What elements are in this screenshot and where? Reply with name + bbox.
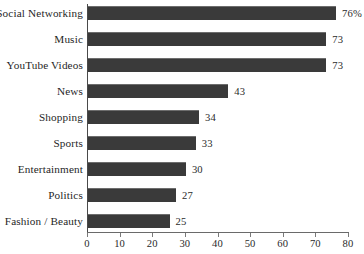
- category-label: Fashion / Beauty: [5, 208, 83, 234]
- bar-container: [88, 110, 199, 124]
- value-label: 27: [182, 182, 193, 208]
- category-label: News: [57, 78, 83, 104]
- category-label: Shopping: [39, 104, 83, 130]
- bar: [88, 214, 170, 228]
- bar: [88, 32, 326, 46]
- bar-row: Music73: [0, 26, 364, 52]
- value-label: 73: [332, 26, 343, 52]
- x-tick: [315, 233, 316, 237]
- x-tick: [250, 233, 251, 237]
- value-label: 30: [192, 156, 203, 182]
- x-tick-label: 80: [333, 238, 363, 249]
- value-label: 73: [332, 52, 343, 78]
- bar-row: Sports33: [0, 130, 364, 156]
- x-tick-label: 10: [105, 238, 135, 249]
- category-label: Entertainment: [18, 156, 83, 182]
- x-tick: [218, 233, 219, 237]
- bar-container: [88, 162, 186, 176]
- x-tick-label: 20: [137, 238, 167, 249]
- bar: [88, 110, 199, 124]
- bar-container: [88, 214, 170, 228]
- bar-container: [88, 6, 336, 20]
- x-tick: [283, 233, 284, 237]
- category-label: Social Networking: [0, 0, 83, 26]
- bar: [88, 84, 228, 98]
- value-label: 76%: [342, 0, 362, 26]
- bar: [88, 58, 326, 72]
- bar-row: News43: [0, 78, 364, 104]
- value-label: 34: [205, 104, 216, 130]
- bar-row: Politics27: [0, 182, 364, 208]
- x-tick-label: 50: [235, 238, 265, 249]
- category-label: Music: [54, 26, 83, 52]
- x-tick: [185, 233, 186, 237]
- category-label: Sports: [54, 130, 84, 156]
- x-tick-label: 0: [72, 238, 102, 249]
- bar-row: Fashion / Beauty25: [0, 208, 364, 234]
- category-label: Politics: [48, 182, 83, 208]
- x-tick: [87, 233, 88, 237]
- x-tick-label: 60: [268, 238, 298, 249]
- bar-container: [88, 32, 326, 46]
- bar-row: Shopping34: [0, 104, 364, 130]
- value-label: 25: [176, 208, 187, 234]
- x-tick: [348, 233, 349, 237]
- bar-row: Entertainment30: [0, 156, 364, 182]
- value-label: 33: [202, 130, 213, 156]
- x-tick-label: 40: [203, 238, 233, 249]
- bar-container: [88, 136, 196, 150]
- x-tick-label: 70: [300, 238, 330, 249]
- bar: [88, 6, 336, 20]
- bar-container: [88, 188, 176, 202]
- category-label: YouTube Videos: [7, 52, 83, 78]
- bar-container: [88, 58, 326, 72]
- x-tick: [120, 233, 121, 237]
- bar: [88, 188, 176, 202]
- x-tick-label: 30: [170, 238, 200, 249]
- x-tick: [152, 233, 153, 237]
- bar-container: [88, 84, 228, 98]
- bar-row: Social Networking76%: [0, 0, 364, 26]
- bar-row: YouTube Videos73: [0, 52, 364, 78]
- bar-chart: Social Networking76%Music73YouTube Video…: [0, 0, 364, 254]
- value-label: 43: [234, 78, 245, 104]
- bar: [88, 162, 186, 176]
- bar: [88, 136, 196, 150]
